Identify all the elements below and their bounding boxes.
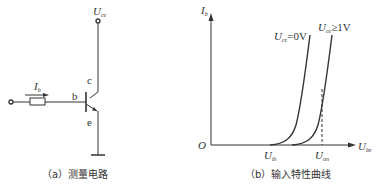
- curve1-label: Uce=0V: [274, 30, 307, 43]
- emitter-arrow-icon: [92, 107, 97, 111]
- y-axis-arrow-icon: [209, 13, 214, 21]
- measurement-circuit: [9, 19, 105, 155]
- origin-label: O: [198, 139, 206, 151]
- emitter-label: e: [87, 116, 92, 128]
- base-label: b: [72, 90, 78, 102]
- curve-uce-1v: [292, 35, 332, 145]
- base-resistor: [30, 98, 45, 105]
- diagram-canvas: Uce Ib b c e （a）测量电路 Ib Ube O Uce=0V Uce…: [0, 0, 377, 188]
- collector-label: c: [87, 74, 92, 86]
- x-axis-arrow-icon: [348, 143, 356, 148]
- uth-label: Uth: [264, 149, 277, 162]
- current-arrow-icon: [43, 93, 49, 97]
- current-label: Ib: [33, 80, 41, 93]
- curve-uce-0v: [270, 35, 310, 145]
- circuit-caption: （a）测量电路: [42, 168, 108, 180]
- input-characteristic-graph: [209, 13, 357, 148]
- supply-label: Uce: [93, 5, 107, 18]
- supply-terminal: [96, 19, 100, 23]
- curve2-label: Uce≥1V: [318, 21, 351, 34]
- x-axis-label: Ube: [358, 140, 372, 153]
- y-axis-label: Ib: [200, 4, 208, 17]
- input-terminal: [9, 100, 13, 104]
- uon-label: Uon: [315, 149, 329, 162]
- graph-caption: （b）输入特性曲线: [245, 168, 331, 180]
